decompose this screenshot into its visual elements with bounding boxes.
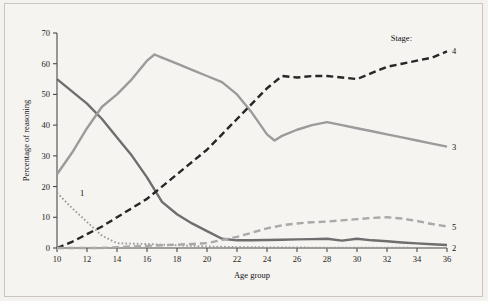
series-label-5: 5 [452, 222, 456, 232]
x-axis-tick-label: 22 [233, 254, 242, 264]
x-axis-tick-label: 34 [413, 254, 422, 264]
x-axis-tick-label: 24 [263, 254, 272, 264]
y-axis-tick-label: 40 [42, 120, 51, 130]
chart-plot-area: 0102030405060701012141618202224262830323… [0, 0, 488, 301]
series-labels-group: 12345Stage: [80, 33, 457, 253]
legend-title: Stage: [391, 33, 412, 43]
x-axis-tick-label: 36 [443, 254, 452, 264]
y-axis-tick-label: 70 [42, 28, 51, 38]
x-axis-tick-label: 16 [143, 254, 152, 264]
series-label-1: 1 [80, 188, 84, 198]
x-axis-tick-label: 20 [203, 254, 212, 264]
series-label-2: 2 [452, 243, 456, 253]
x-axis-tick-label: 30 [353, 254, 362, 264]
series-line-3 [57, 55, 447, 175]
x-axis-title: Age group [234, 270, 270, 280]
series-group [57, 51, 447, 248]
x-axis-tick-label: 18 [173, 254, 182, 264]
series-label-4: 4 [452, 46, 457, 56]
y-axis-tick-label: 50 [42, 89, 51, 99]
y-axis-tick-label: 30 [42, 151, 51, 161]
series-label-3: 3 [452, 142, 456, 152]
x-axis-tick-label: 32 [383, 254, 392, 264]
series-line-5 [57, 217, 447, 248]
y-axis-title: Percentage of reasoning [21, 99, 31, 181]
y-axis-tick-label: 10 [42, 212, 51, 222]
x-axis-tick-label: 12 [83, 254, 92, 264]
y-axis-tick-label: 0 [46, 243, 50, 253]
x-axis-tick-label: 14 [113, 254, 122, 264]
x-axis-tick-label: 26 [293, 254, 302, 264]
x-axis-tick-label: 28 [323, 254, 332, 264]
y-axis-tick-label: 60 [42, 59, 51, 69]
x-axis-tick-label: 10 [53, 254, 62, 264]
figure-background: 0102030405060701012141618202224262830323… [0, 0, 488, 301]
y-axis-tick-label: 20 [42, 182, 51, 192]
line-chart-svg: 0102030405060701012141618202224262830323… [0, 0, 488, 301]
